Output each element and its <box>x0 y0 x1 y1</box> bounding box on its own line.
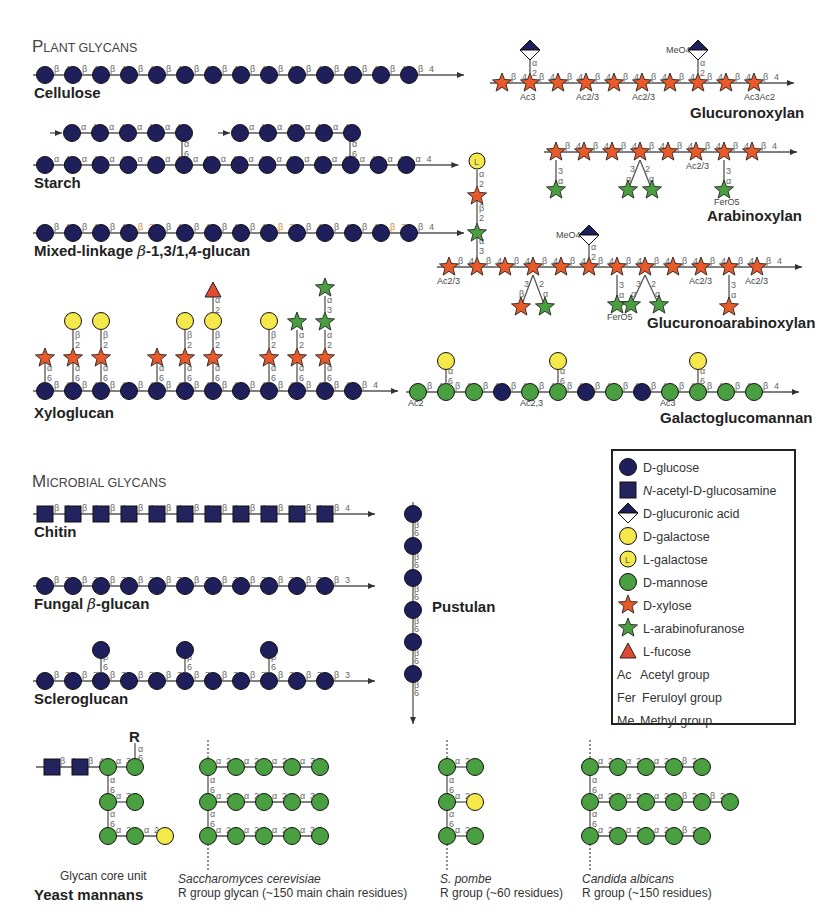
mannose-icon <box>606 384 623 401</box>
linkage-label: 2 <box>103 340 108 350</box>
linkage-label: 3 <box>619 280 624 290</box>
linkage-label: β <box>679 381 684 391</box>
glucose-icon <box>233 225 250 242</box>
linkage-label: 2 <box>539 279 544 289</box>
linkage-label: α <box>626 825 631 835</box>
linkage-label: β <box>166 575 171 585</box>
glucuronoarabinoxylan-structure: β4β4β4β4β4β4β4β4β4β4β4β4α3β2α2Lα2MeO43β2… <box>437 153 802 322</box>
chitin-structure: β4β4β4β4β4β4β4β4β4β4β4 <box>33 503 375 522</box>
glucose-icon <box>37 578 54 595</box>
linkage-label: β <box>82 670 87 680</box>
acetyl-label: Ac3 <box>660 398 676 408</box>
linkage-label: β <box>651 381 656 391</box>
linkage-label: α <box>304 154 309 164</box>
linkage-label: α <box>216 756 221 766</box>
linkage-label: β <box>649 141 654 151</box>
glucose-icon <box>373 67 390 84</box>
glucose-icon <box>92 157 109 174</box>
linkage-label: α <box>591 242 596 252</box>
linkage-label: β <box>483 381 488 391</box>
linkage-label: 6 <box>110 785 115 795</box>
glucose-icon <box>260 125 277 142</box>
l-letter: L <box>625 555 630 565</box>
glucose-icon <box>289 67 306 84</box>
linkage-label: 6 <box>414 656 419 666</box>
glucose-icon <box>65 578 82 595</box>
linkage-label: α <box>244 756 249 766</box>
glucose-icon <box>177 673 194 690</box>
glucose-icon <box>345 225 362 242</box>
glucose-icon <box>121 673 138 690</box>
linkage-label: α <box>558 176 563 186</box>
linkage-label: β <box>598 256 603 266</box>
legend-label: L-galactose <box>643 553 708 567</box>
glucose-icon <box>121 225 138 242</box>
mannose-icon <box>439 759 456 776</box>
mannose-icon <box>694 759 711 776</box>
l-galactose-icon: L <box>620 551 636 567</box>
linkage-label: α <box>305 122 310 132</box>
linkage-label: α <box>221 154 226 164</box>
glucose-icon <box>37 67 54 84</box>
chitin-label: Chitin <box>34 523 77 540</box>
mannose-icon <box>690 384 707 401</box>
linkage-label: α <box>449 775 454 785</box>
linkage-label: 6 <box>448 376 453 386</box>
linkage-label: α <box>700 58 705 68</box>
linkage-label: β <box>570 256 575 266</box>
linkage-label: β <box>705 141 710 151</box>
glycan-diagram: PLANT GLYCANS MICROBIAL GLYCANS β4β4β4β4… <box>0 0 835 912</box>
linkage-label: β <box>455 381 460 391</box>
linkage-label: α <box>300 825 305 835</box>
linkage-label: β <box>82 503 87 513</box>
linkage-label: β <box>486 256 491 266</box>
linkage-label: α <box>110 154 115 164</box>
linkage-label: 4 <box>774 72 779 82</box>
species-sc-name: Saccharomyces cerevisiae <box>178 872 321 886</box>
mannose-icon <box>610 759 627 776</box>
linkage-label: β <box>271 330 276 340</box>
arabinose-icon <box>650 295 669 313</box>
mannose-icon <box>620 574 637 591</box>
mannose-icon <box>746 384 763 401</box>
glucose-icon <box>317 383 334 400</box>
linkage-label: α <box>137 122 142 132</box>
linkage-label: 4 <box>345 503 350 513</box>
glucose-icon <box>121 67 138 84</box>
acetyl-label: Ac2/3 <box>437 276 460 286</box>
species-sp-desc: R group (~60 residues) <box>440 886 563 900</box>
linkage-label: β <box>511 381 516 391</box>
linkage-label: 6 <box>187 373 192 383</box>
glucose-icon <box>345 383 362 400</box>
glucose-icon <box>149 225 166 242</box>
glucose-icon <box>37 383 54 400</box>
acetyl-label: Ac2/3 <box>632 92 655 102</box>
linkage-label: β <box>138 503 143 513</box>
linkage-label: β <box>763 72 768 82</box>
linkage-label: α <box>300 791 305 801</box>
linkage-label: β <box>710 791 715 801</box>
linkage-label: β <box>278 503 283 513</box>
linkage-label: 2 <box>215 340 220 350</box>
glucose-icon <box>121 578 138 595</box>
linkage-label: β <box>75 330 80 340</box>
linkage-label: β <box>278 575 283 585</box>
glucose-icon <box>205 383 222 400</box>
glucose-icon <box>289 578 306 595</box>
linkage-label: β <box>54 380 59 390</box>
fungal-glucan-structure: β3β3β3β3β3β3β3β3β3β3β3 <box>33 575 375 595</box>
linkage-label: α <box>300 756 305 766</box>
fungal-glucan-label: Fungal β-glucan <box>34 595 149 613</box>
linkage-label: 2 <box>327 340 332 350</box>
mannose-icon <box>228 794 245 811</box>
arabinose-icon <box>619 180 638 198</box>
acetyl-label: Ac3Ac2 <box>744 92 775 102</box>
legend-item: LL-galactose <box>620 551 708 567</box>
linkage-label: β <box>250 64 255 74</box>
glucose-icon <box>65 673 82 690</box>
linkage-label: 6 <box>187 662 192 672</box>
starch-label: Starch <box>34 174 81 191</box>
linkage-label: β <box>735 381 740 391</box>
glucose-icon <box>93 383 110 400</box>
linkage-label: 2 <box>479 179 484 189</box>
